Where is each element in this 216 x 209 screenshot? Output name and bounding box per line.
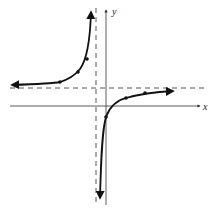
x-axis-label: x <box>202 101 208 112</box>
point-marker <box>76 70 80 74</box>
point-marker <box>58 80 62 84</box>
curve-right-branch <box>100 91 173 198</box>
point-marker <box>104 115 108 119</box>
y-axis-label: y <box>111 6 117 17</box>
hyperbola-graph: x y <box>0 0 216 209</box>
point-marker <box>143 91 147 95</box>
curve-left-branch <box>12 12 91 85</box>
point-marker <box>85 57 89 61</box>
point-marker <box>124 96 128 100</box>
